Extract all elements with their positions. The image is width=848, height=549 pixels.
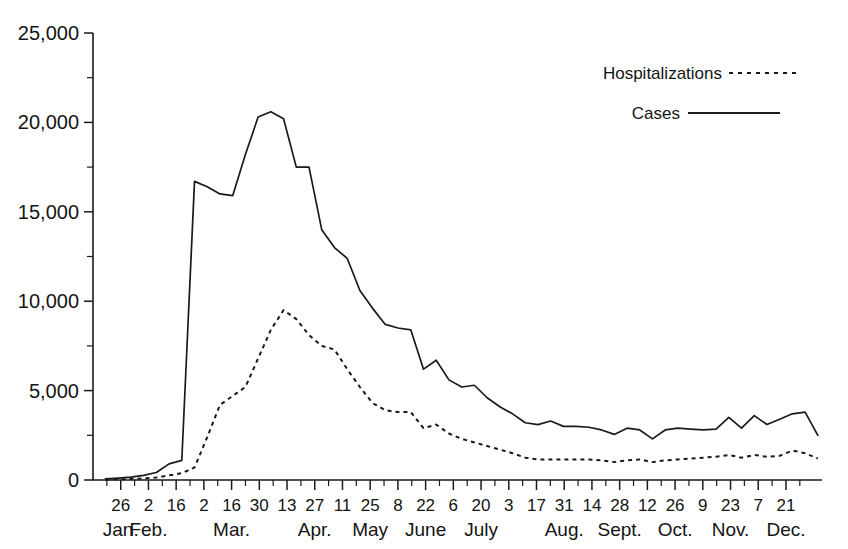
- y-tick-label: 20,000: [18, 111, 79, 133]
- x-tick-label: 16: [167, 496, 186, 515]
- x-month-label: Sept.: [597, 519, 641, 540]
- x-tick-label: 28: [610, 496, 629, 515]
- axis-frame: [93, 33, 822, 480]
- series-lines: [105, 112, 817, 480]
- x-tick-label: 2: [144, 496, 153, 515]
- chart-container: 05,00010,00015,00020,00025,000 262162163…: [0, 0, 848, 549]
- x-tick-label: 9: [698, 496, 707, 515]
- x-month-label: Dec.: [766, 519, 805, 540]
- x-month-label: Aug.: [545, 519, 584, 540]
- x-month-label: Oct.: [658, 519, 693, 540]
- x-tick-label: 3: [504, 496, 513, 515]
- x-tick-label: 23: [721, 496, 740, 515]
- x-month-label: Nov.: [712, 519, 750, 540]
- x-tick-label: 27: [305, 496, 324, 515]
- y-tick-label: 0: [68, 469, 79, 491]
- x-month-label: July: [464, 519, 498, 540]
- line-chart: 05,00010,00015,00020,00025,000 262162163…: [0, 0, 848, 549]
- x-tick-label: 31: [555, 496, 574, 515]
- x-tick-label: 13: [278, 496, 297, 515]
- y-tick-label: 5,000: [29, 380, 79, 402]
- x-tick-label: 16: [222, 496, 241, 515]
- legend-label-hospitalizations: Hospitalizations: [603, 64, 722, 83]
- x-tick-label: 2: [199, 496, 208, 515]
- x-tick-label: 26: [666, 496, 685, 515]
- x-tick-label: 22: [416, 496, 435, 515]
- x-axis: 2621621630132711258226203173114281226923…: [103, 480, 806, 540]
- chart-legend: HospitalizationsCases: [603, 64, 800, 123]
- x-tick-label: 20: [472, 496, 491, 515]
- x-tick-label: 7: [754, 496, 763, 515]
- x-month-label: Mar.: [213, 519, 250, 540]
- y-axis: 05,00010,00015,00020,00025,000: [18, 22, 822, 491]
- x-month-label: Feb.: [129, 519, 167, 540]
- series-line-hospitalizations: [105, 310, 817, 480]
- y-tick-label: 15,000: [18, 201, 79, 223]
- x-tick-label: 12: [638, 496, 657, 515]
- x-month-label: June: [405, 519, 446, 540]
- x-tick-label: 17: [527, 496, 546, 515]
- y-tick-label: 25,000: [18, 22, 79, 44]
- x-tick-label: 30: [250, 496, 269, 515]
- x-month-label: May: [352, 519, 388, 540]
- x-tick-label: 26: [111, 496, 130, 515]
- x-month-label: Apr.: [298, 519, 332, 540]
- x-tick-label: 8: [393, 496, 402, 515]
- x-tick-label: 21: [777, 496, 796, 515]
- legend-label-cases: Cases: [632, 104, 680, 123]
- y-tick-label: 10,000: [18, 290, 79, 312]
- x-tick-label: 6: [449, 496, 458, 515]
- x-tick-label: 11: [334, 496, 352, 515]
- x-tick-label: 25: [361, 496, 380, 515]
- x-tick-label: 14: [582, 496, 601, 515]
